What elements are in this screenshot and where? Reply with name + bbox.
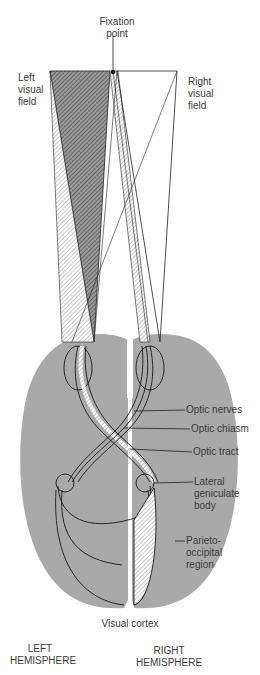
parieto-line2: occipital <box>186 547 222 559</box>
optic-nerves-label: Optic nerves <box>186 404 242 416</box>
lgb-line1: Lateral <box>194 476 240 488</box>
lgb-line2: geniculate <box>194 488 240 500</box>
fixation-line2: point <box>92 28 142 40</box>
fixation-point-dot <box>111 70 115 74</box>
left-field-line2: visual <box>18 84 44 96</box>
optic-chiasm-label: Optic chiasm <box>191 423 249 435</box>
left-hemisphere-line2: HEMISPHERE <box>10 655 70 667</box>
right-field-line3: field <box>188 100 214 112</box>
optic-tract-label: Optic tract <box>193 446 239 458</box>
right-visual-field-label: Right visual field <box>188 76 214 112</box>
lateral-geniculate-body-label: Lateral geniculate body <box>194 476 240 512</box>
left-visual-field <box>50 71 150 342</box>
visual-cortex-label: Visual cortex <box>70 618 190 630</box>
parieto-line1: Parieto- <box>186 535 222 547</box>
left-field-line3: field <box>18 96 44 108</box>
right-field-line2: visual <box>188 88 214 100</box>
right-hemisphere-line1: RIGHT <box>136 645 202 657</box>
right-field-line1: Right <box>188 76 214 88</box>
fixation-point-label: Fixation point <box>92 16 142 40</box>
right-hemisphere-line2: HEMISPHERE <box>136 657 202 669</box>
left-visual-field-label: Left visual field <box>18 72 44 108</box>
left-hemisphere-label: LEFT HEMISPHERE <box>10 643 70 667</box>
left-hemisphere-line1: LEFT <box>10 643 70 655</box>
right-hemisphere-label: RIGHT HEMISPHERE <box>136 645 202 669</box>
parieto-line3: region <box>186 559 222 571</box>
parieto-occipital-label: Parieto- occipital region <box>186 535 222 571</box>
fixation-line1: Fixation <box>92 16 142 28</box>
left-field-line1: Left <box>18 72 44 84</box>
lgb-line3: body <box>194 500 240 512</box>
